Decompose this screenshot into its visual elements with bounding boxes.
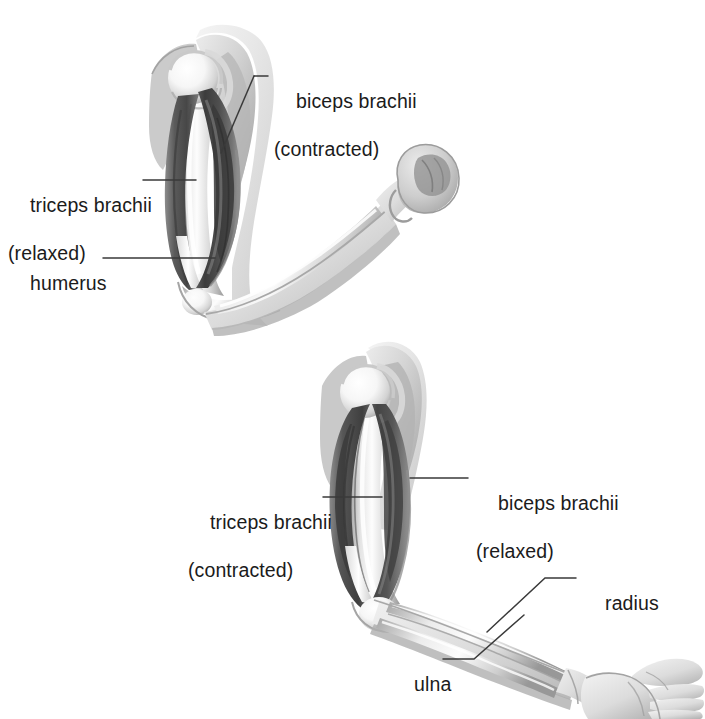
label-top-biceps-line2: (contracted) xyxy=(274,137,417,161)
label-bottom-triceps-line2: (contracted) xyxy=(188,558,332,582)
anatomy-figure: biceps brachii (contracted) triceps brac… xyxy=(0,0,705,719)
label-top-triceps-line1: triceps brachii xyxy=(30,194,152,216)
hand-ring-finger xyxy=(648,710,703,719)
label-bottom-triceps-line1: triceps brachii xyxy=(210,511,332,533)
label-bottom-triceps: triceps brachii (contracted) xyxy=(188,486,332,630)
label-top-humerus-line1: humerus xyxy=(30,272,107,294)
label-top-humerus: humerus xyxy=(8,247,107,319)
hand-index-finger xyxy=(648,684,704,701)
label-bottom-biceps-line1: biceps brachii xyxy=(498,492,619,514)
label-bottom-ulna-line1: ulna xyxy=(414,673,451,695)
label-bottom-biceps-line2: (relaxed) xyxy=(476,539,619,563)
label-top-biceps-line1: biceps brachii xyxy=(296,90,417,112)
label-top-biceps: biceps brachii (contracted) xyxy=(274,65,417,209)
label-bottom-radius-line1: radius xyxy=(605,592,659,614)
label-bottom-ulna: ulna xyxy=(392,648,451,719)
label-bottom-radius: radius xyxy=(583,567,659,639)
hand-thumb xyxy=(632,659,703,686)
